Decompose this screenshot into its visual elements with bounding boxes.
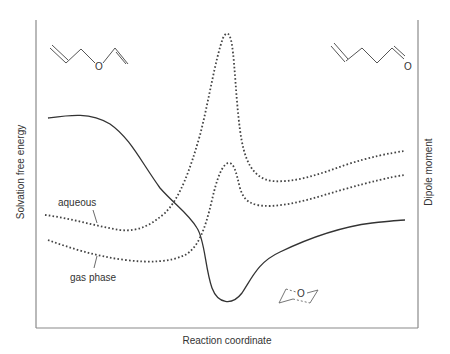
reactant-structure-icon: O [50,45,128,72]
x-axis-label: Reaction coordinate [183,335,272,346]
gas-phase-leader-line [94,256,97,268]
gas-phase-dipole-curve [48,163,405,262]
product-oxygen-label: O [404,61,412,72]
chair-ts-structure-icon: O [279,288,318,303]
gas-phase-label: gas phase [70,272,117,283]
y-axis-left-label: Solvation free energy [15,125,26,220]
ts-oxygen-label: O [297,288,305,299]
reactant-oxygen-label: O [95,61,103,72]
aqueous-label: aqueous [58,197,96,208]
gas-phase-annotation: gas phase [70,256,117,283]
aqueous-leader-line [93,210,97,223]
y-axis-right-label: Dipole moment [423,138,434,205]
chart: Reaction coordinate Solvation free energ… [0,0,450,354]
aqueous-annotation: aqueous [58,197,97,223]
product-structure-icon: O [331,43,412,72]
